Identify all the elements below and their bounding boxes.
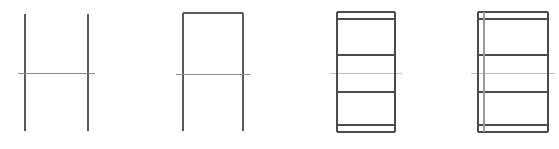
figure-1-h-shape [18,14,95,131]
figure-sheet [0,0,559,149]
figure-4-banded-rectangle-with-inner-vertical [471,12,555,132]
figure-canvas [0,0,559,149]
figure-3-banded-rectangle [330,12,402,132]
figure-2-closed-top [176,13,250,131]
